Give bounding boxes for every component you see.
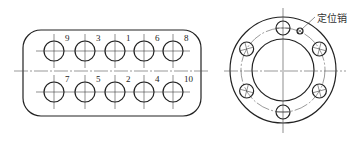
flange-bolt-hole xyxy=(240,42,254,56)
flange-bolt-hole xyxy=(312,42,326,56)
bolt-number: 10 xyxy=(184,74,194,84)
round-flange xyxy=(224,8,346,133)
flange-bolt-hole xyxy=(240,84,254,98)
bolt-hole: 5 xyxy=(75,74,101,109)
bolt-pattern-diagram: 93168 752410 xyxy=(0,0,358,142)
bolt-number: 9 xyxy=(65,33,70,43)
bottom-bolt-holes: 752410 xyxy=(44,74,194,109)
dowel-leader-line xyxy=(302,17,315,29)
bolt-hole: 6 xyxy=(134,33,160,68)
bolt-hole: 2 xyxy=(105,74,131,109)
bolt-hole: 9 xyxy=(44,33,70,68)
bolt-number: 1 xyxy=(126,33,131,43)
bolt-number: 2 xyxy=(126,74,131,84)
bolt-number: 5 xyxy=(96,74,101,84)
bolt-hole: 8 xyxy=(163,33,189,68)
bolt-hole: 4 xyxy=(134,74,160,109)
bolt-number: 8 xyxy=(184,33,189,43)
bolt-number: 3 xyxy=(96,33,101,43)
bolt-number: 7 xyxy=(65,74,70,84)
top-bolt-holes: 93168 xyxy=(44,33,189,68)
flange-outline xyxy=(23,30,201,116)
bolt-number: 4 xyxy=(155,74,160,84)
dowel-pin-label: 定位销 xyxy=(317,10,347,25)
bolt-hole: 1 xyxy=(105,33,131,68)
rectangular-flange xyxy=(14,30,210,116)
bolt-hole: 7 xyxy=(44,74,70,109)
bolt-hole: 10 xyxy=(163,74,194,109)
bolt-hole: 3 xyxy=(75,33,101,68)
bolt-number: 6 xyxy=(155,33,160,43)
flange-bolt-hole xyxy=(312,84,326,98)
